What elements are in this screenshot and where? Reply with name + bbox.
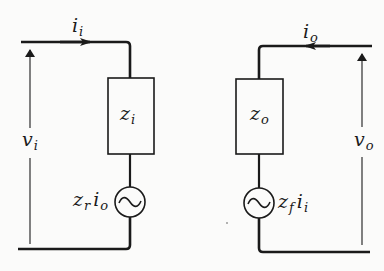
- input-current-label: ii: [72, 16, 83, 35]
- input-bottom-wire: [18, 217, 130, 249]
- output-impedance-label: zo: [250, 104, 269, 123]
- input-impedance-label: zi: [120, 104, 135, 123]
- tilde-icon: [119, 198, 141, 207]
- output-current-label: io: [303, 22, 318, 41]
- input-voltage-label: vi: [22, 130, 38, 149]
- two-port-circuit-diagram: ii vi zi zrio io vo zo zfii: [0, 0, 384, 271]
- circuit-drawing: [0, 0, 384, 271]
- output-source-label: zfii: [278, 192, 308, 211]
- input-source-label: zrio: [73, 190, 108, 209]
- output-voltage-label: vo: [354, 130, 374, 149]
- output-top-wire: [259, 46, 372, 79]
- input-port: [18, 42, 154, 249]
- output-port: [236, 46, 372, 252]
- tilde-icon: [248, 199, 270, 208]
- input-top-wire: [21, 42, 130, 78]
- output-bottom-wire: [259, 218, 370, 252]
